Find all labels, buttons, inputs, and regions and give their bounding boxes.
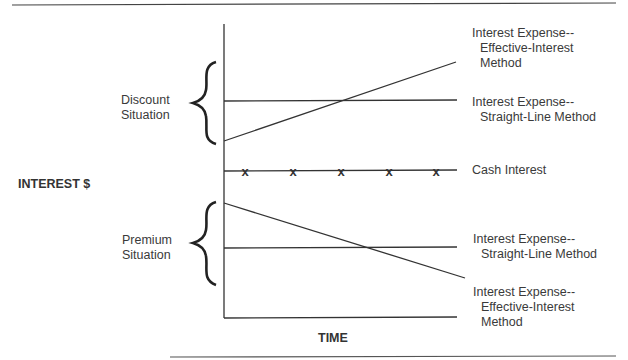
y-axis-label: INTEREST $	[18, 177, 90, 192]
premium-effective-line	[224, 203, 465, 278]
discount-brace-icon	[193, 62, 216, 144]
x-marker-icon: x	[289, 164, 297, 179]
top-rule	[12, 3, 616, 5]
cash-markers: x x x x x	[241, 164, 440, 179]
bottom-rule	[170, 356, 616, 357]
premium-straight-line	[224, 247, 457, 248]
cash-interest-label: Cash Interest	[472, 163, 546, 178]
x-marker-icon: x	[385, 164, 393, 179]
discount-straight-label: Interest Expense-- Straight-Line Method	[472, 95, 596, 125]
discount-effective-label: Interest Expense-- Effective-Interest Me…	[472, 26, 574, 71]
discount-straight-line	[224, 100, 457, 101]
discount-label: Discount Situation	[121, 93, 170, 123]
x-marker-icon: x	[337, 164, 345, 179]
premium-effective-label: Interest Expense-- Effective-Interest Me…	[473, 285, 575, 330]
premium-label: Premium Situation	[122, 233, 172, 263]
x-axis	[224, 317, 457, 318]
x-marker-icon: x	[241, 164, 249, 179]
x-marker-icon: x	[432, 164, 440, 179]
x-axis-label: TIME	[318, 331, 348, 346]
premium-brace-icon	[193, 202, 216, 285]
premium-straight-label: Interest Expense-- Straight-Line Method	[473, 232, 597, 262]
